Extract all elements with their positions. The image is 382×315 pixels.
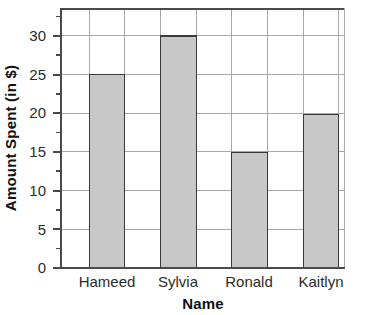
x-tick-label-hameed: Hameed (79, 273, 136, 290)
y-tick-label-30: 30 (29, 27, 46, 44)
x-tick-label-kaitlyn: Kaitlyn (298, 273, 343, 290)
y-tick-label-20: 20 (29, 104, 46, 121)
y-tick-label-15: 15 (29, 143, 46, 160)
y-tick-label-0: 0 (38, 259, 46, 276)
x-tick-label-sylvia: Sylvia (158, 273, 199, 290)
bar-kaitlyn (304, 115, 339, 268)
y-axis-title: Amount Spent (in $) (2, 65, 19, 211)
bar-ronald (232, 153, 268, 268)
y-tick-label-10: 10 (29, 182, 46, 199)
x-axis-title: Name (182, 295, 224, 312)
bar-sylvia (161, 36, 197, 268)
y-tick-label-25: 25 (29, 66, 46, 83)
y-axis-major-ticks (53, 36, 61, 268)
chart-canvas: 0 5 10 15 20 25 30 Hameed Sylvia Ronald … (0, 0, 382, 315)
x-tick-label-ronald: Ronald (225, 273, 273, 290)
y-tick-label-5: 5 (38, 221, 46, 238)
bar-hameed (90, 75, 125, 268)
bar-chart-figure: 0 5 10 15 20 25 30 Hameed Sylvia Ronald … (0, 0, 382, 315)
